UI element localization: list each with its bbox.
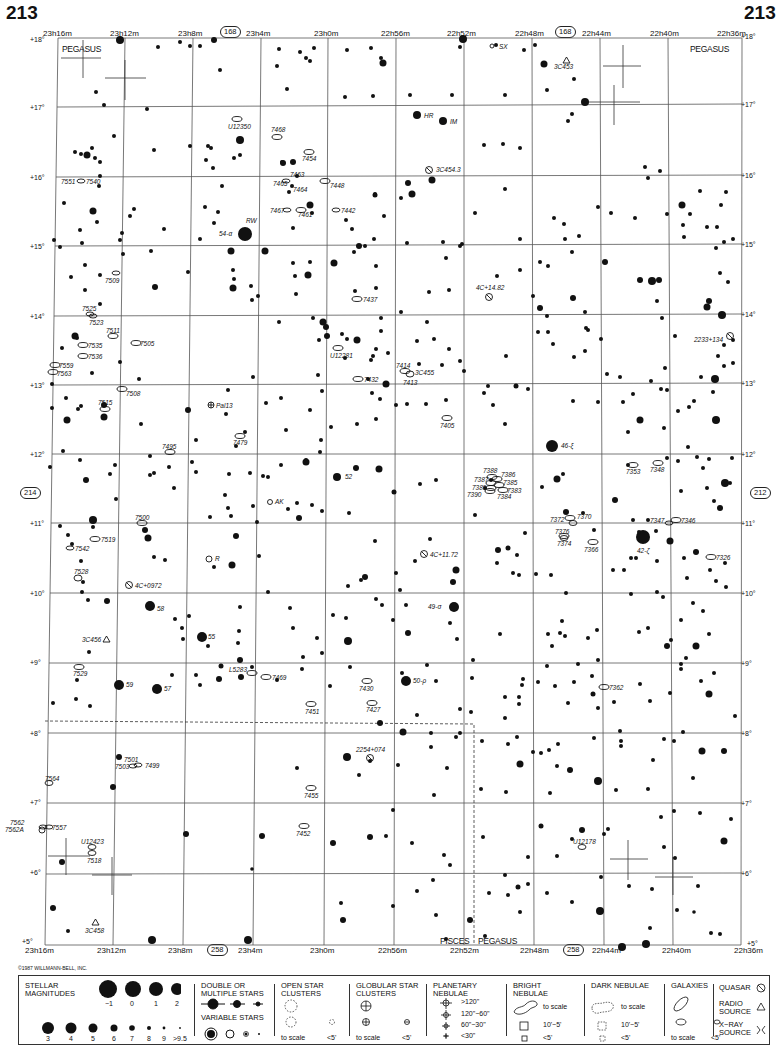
label-7454: 7454 xyxy=(302,155,316,162)
label-7389: 7389 xyxy=(472,484,486,491)
label-42-zeta: 42-ζ xyxy=(637,547,649,554)
label-7442: 7442 xyxy=(341,207,355,214)
star-chart xyxy=(0,0,779,1052)
label-7495: 7495 xyxy=(162,443,176,450)
source-icons xyxy=(751,976,771,1046)
label-7467: 7467 xyxy=(270,207,284,214)
label-7501: 7501 xyxy=(124,756,138,763)
double-star-icon xyxy=(199,998,269,1010)
label-4c-11-72: 4C+11.72 xyxy=(430,551,458,558)
label-7376: 7376 xyxy=(555,528,569,535)
legend-planetary-nebulae: PLANETARY NEBULAE >120" 120"−60" 60"−30"… xyxy=(431,976,501,1044)
legend-divider xyxy=(664,984,665,1036)
label-7469: 7469 xyxy=(272,674,286,681)
copyright: ©1987 WILLMANN-BELL, INC. xyxy=(18,965,87,971)
label-7468: 7468 xyxy=(271,126,285,133)
legend-divider xyxy=(713,984,714,1036)
constellation-label: PISCES xyxy=(440,936,469,946)
label-7451: 7451 xyxy=(305,708,319,715)
legend-sources: QUASAR RADIO SOURCE X−RAY SOURCE xyxy=(717,976,771,1044)
bright-nebula-icon xyxy=(511,998,541,1044)
label-l5283: L5283 xyxy=(229,666,247,673)
magnitude-scale-icon xyxy=(19,976,181,1046)
label-57: 57 xyxy=(164,685,171,692)
label-7432: 7432 xyxy=(364,376,378,383)
label-7430: 7430 xyxy=(359,685,373,692)
label-7499: 7499 xyxy=(145,762,159,769)
label-7542: 7542 xyxy=(75,545,89,552)
radio-source-icon xyxy=(757,1003,765,1010)
legend: STELLAR MAGNITUDES −1 0 1 2 3 4 5 6 7 8 … xyxy=(18,975,770,1045)
label-7388: 7388 xyxy=(483,467,497,474)
label-7326: 7326 xyxy=(716,554,730,561)
label-7523: 7523 xyxy=(89,319,103,326)
label-pal13: Pal13 xyxy=(216,402,233,409)
label-7511: 7511 xyxy=(106,327,120,334)
label-52: 52 xyxy=(345,473,352,480)
label-7347: 7347 xyxy=(650,517,664,524)
label-7437: 7437 xyxy=(363,296,377,303)
legend-divider xyxy=(349,984,350,1036)
label-7505: 7505 xyxy=(140,340,154,347)
label-u12423: U12423 xyxy=(81,838,104,845)
constellation-label: PEGASUS xyxy=(690,44,729,54)
label-3c453: 3C453 xyxy=(554,63,573,70)
label-7564: 7564 xyxy=(45,775,59,782)
quasar-icon xyxy=(757,984,765,992)
label-7529: 7529 xyxy=(73,670,87,677)
legend-divider xyxy=(426,984,427,1036)
label-u12178: U12178 xyxy=(573,838,596,845)
planetary-nebula-icon xyxy=(431,998,461,1044)
label-46-xi: 46-ξ xyxy=(561,442,573,449)
label-7562: 7562 xyxy=(10,819,24,826)
label-7563: 7563 xyxy=(57,370,71,377)
label-7508: 7508 xyxy=(126,390,140,397)
label-im: IM xyxy=(450,118,457,125)
label-r: R xyxy=(215,555,220,562)
label-rw: RW xyxy=(246,217,257,224)
legend-divider xyxy=(194,984,195,1036)
legend-globular-clusters: GLOBULAR STAR CLUSTERS to scale <5' xyxy=(354,976,422,1044)
label-7519: 7519 xyxy=(101,536,115,543)
legend-divider xyxy=(274,984,275,1036)
globular-cluster-icon xyxy=(354,998,422,1032)
label-7414: 7414 xyxy=(396,362,410,369)
label-7559: 7559 xyxy=(59,362,73,369)
legend-divider xyxy=(584,984,585,1036)
label-7346: 7346 xyxy=(681,517,695,524)
label-7465: 7465 xyxy=(273,180,287,187)
label-7366: 7366 xyxy=(584,546,598,553)
constellation-boundary xyxy=(45,721,474,945)
label-7386: 7386 xyxy=(501,471,515,478)
label-sx: SX xyxy=(499,43,508,50)
variable-star-icon xyxy=(199,1026,269,1042)
label-2254-074: 2254+074 xyxy=(356,746,385,753)
label-3c455: 3C455 xyxy=(415,369,434,376)
label-u12281: U12281 xyxy=(330,352,353,359)
label-49-sigma: 49-σ xyxy=(428,603,441,610)
label-7353: 7353 xyxy=(626,468,640,475)
label-7463: 7463 xyxy=(290,171,304,178)
label-7557: 7557 xyxy=(52,824,66,831)
legend-divider xyxy=(506,984,507,1036)
label-u12350: U12350 xyxy=(228,123,251,130)
dark-nebula-icon xyxy=(589,998,619,1044)
legend-bright-nebulae: BRIGHT NEBULAE to scale 10'−5' <5' xyxy=(511,976,581,1044)
label-54-alpha: 54-α xyxy=(219,230,232,237)
label-58: 58 xyxy=(157,605,164,612)
label-7525: 7525 xyxy=(82,305,96,312)
label-7464: 7464 xyxy=(293,186,307,193)
label-7370: 7370 xyxy=(577,513,591,520)
label-50-rho: 50-ρ xyxy=(413,677,426,684)
label-7515: 7515 xyxy=(98,399,112,406)
label-7503: 7503 xyxy=(115,763,129,770)
label-7385: 7385 xyxy=(503,479,517,486)
label-7540: 7540 xyxy=(86,178,100,185)
label-59: 59 xyxy=(126,681,133,688)
label-7536: 7536 xyxy=(88,353,102,360)
label-3c458: 3C458 xyxy=(85,927,104,934)
legend-double-stars: DOUBLE OR MULTIPLE STARS VARIABLE STARS xyxy=(199,976,269,1044)
label-7500: 7500 xyxy=(135,514,149,521)
label-7362: 7362 xyxy=(609,684,623,691)
label-7387: 7387 xyxy=(474,476,488,483)
